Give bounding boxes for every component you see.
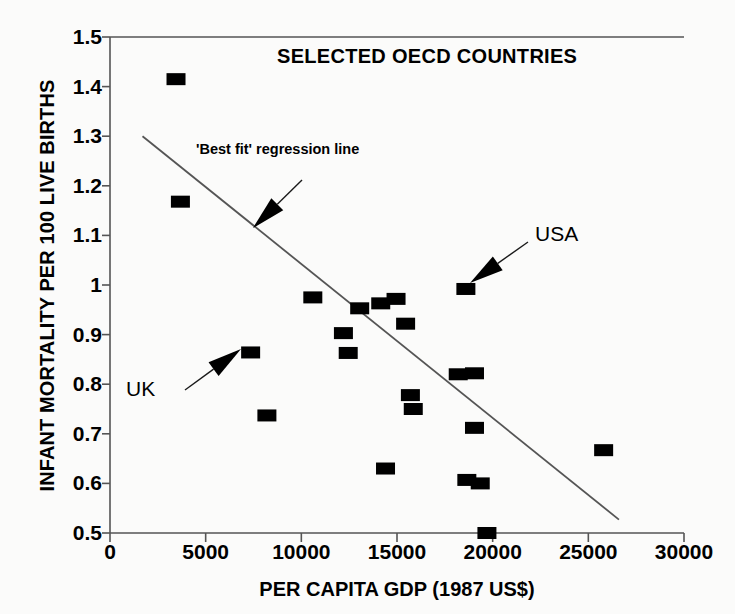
x-tick-label: 25000 [559, 541, 617, 562]
data-point-marker[interactable] [449, 368, 468, 380]
data-point-marker[interactable] [465, 367, 484, 379]
x-tick-label: 30000 [655, 541, 713, 562]
usa-arrow-head [470, 256, 503, 283]
regression-arrow-head [253, 198, 283, 228]
data-point-marker[interactable] [465, 422, 484, 434]
data-point-marker[interactable] [339, 347, 358, 359]
data-point-marker[interactable] [401, 389, 420, 401]
data-point-marker[interactable] [303, 291, 322, 303]
y-tick-label: 0.7 [42, 423, 102, 444]
x-axis-title: PER CAPITA GDP (1987 US$) [110, 578, 684, 601]
data-point-marker[interactable] [477, 527, 496, 539]
x-tick-label: 0 [104, 541, 116, 562]
y-tick-label: 1.1 [42, 224, 102, 245]
data-point-marker[interactable] [371, 297, 390, 309]
data-point-marker[interactable] [594, 444, 613, 456]
regression-line [143, 136, 619, 519]
data-point-marker[interactable] [171, 196, 190, 208]
data-point-marker-uk[interactable] [241, 346, 260, 358]
y-tick-label: 0.8 [42, 373, 102, 394]
uk-arrow-head [209, 349, 241, 376]
plot-canvas [0, 0, 735, 614]
y-tick-label: 0.5 [42, 522, 102, 543]
data-point-marker[interactable] [387, 293, 406, 305]
data-point-marker[interactable] [334, 327, 353, 339]
data-point-marker[interactable] [457, 474, 476, 486]
data-point-marker[interactable] [350, 302, 369, 314]
chart-figure: INFANT MORTALITY PER 100 LIVE BIRTHS PER… [0, 0, 735, 614]
uk-arrow-shaft [185, 369, 214, 390]
data-point-marker[interactable] [257, 409, 276, 421]
data-point-marker[interactable] [404, 403, 423, 415]
y-tick-label: 0.9 [42, 324, 102, 345]
data-point-marker[interactable] [376, 463, 395, 475]
y-tick-label: 1.2 [42, 175, 102, 196]
usa-arrow-shaft [498, 242, 528, 263]
x-tick-label: 20000 [463, 541, 521, 562]
y-tick-label: 1.5 [42, 26, 102, 47]
chart-title: SELECTED OECD COUNTRIES [277, 45, 577, 68]
y-tick-label: 1.3 [42, 125, 102, 146]
y-tick-label: 1 [42, 274, 102, 295]
data-point-marker[interactable] [167, 73, 186, 85]
data-point-marker[interactable] [471, 477, 490, 489]
data-point-marker-usa[interactable] [456, 283, 475, 295]
regression-line-annotation: 'Best fit' regression line [196, 141, 359, 157]
x-tick-label: 10000 [272, 541, 330, 562]
x-tick-label: 15000 [368, 541, 426, 562]
uk-annotation: UK [126, 377, 155, 401]
usa-annotation: USA [535, 222, 578, 246]
regression-arrow-shaft [277, 180, 302, 204]
x-tick-label: 5000 [182, 541, 229, 562]
y-tick-label: 0.6 [42, 472, 102, 493]
data-point-marker[interactable] [396, 318, 415, 330]
y-tick-label: 1.4 [42, 76, 102, 97]
